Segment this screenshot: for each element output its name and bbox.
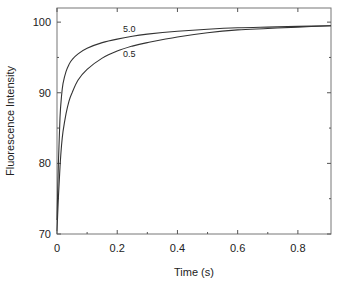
- x-tick-label: 0: [54, 242, 60, 254]
- series-layer: 5.00.5: [57, 24, 331, 230]
- series-line-5-0: [57, 26, 331, 220]
- y-tick-label: 100: [33, 16, 51, 28]
- series-label-5-0: 5.0: [123, 24, 136, 34]
- x-tick-label: 0.8: [290, 242, 305, 254]
- x-axis: 00.20.40.60.8: [54, 8, 306, 254]
- x-axis-label: Time (s): [174, 266, 214, 278]
- x-tick-label: 0.4: [170, 242, 185, 254]
- y-axis-label: Fluorescence Intensity: [4, 65, 16, 176]
- y-tick-label: 90: [39, 87, 51, 99]
- plot-frame: [57, 8, 331, 234]
- x-tick-label: 0.2: [110, 242, 125, 254]
- line-chart: 00.20.40.60.8 708090100 5.00.5 Time (s) …: [0, 0, 339, 287]
- plot-border: [57, 8, 331, 234]
- y-tick-label: 70: [39, 228, 51, 240]
- x-tick-label: 0.6: [230, 242, 245, 254]
- series-label-0-5: 0.5: [123, 49, 136, 59]
- y-tick-label: 80: [39, 157, 51, 169]
- series-line-0-5: [57, 26, 331, 231]
- y-axis: 708090100: [33, 16, 331, 240]
